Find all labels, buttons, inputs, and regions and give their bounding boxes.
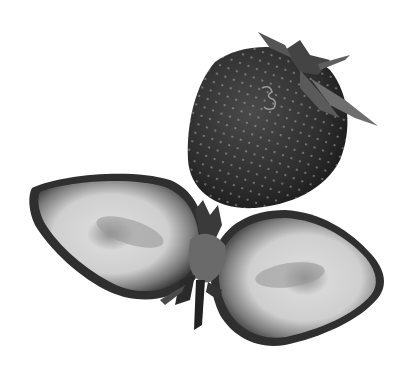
halved-strawberry-right [211, 210, 384, 346]
whole-strawberry [188, 32, 378, 208]
strawberry-photo [0, 0, 408, 378]
photo-scene [0, 0, 408, 378]
